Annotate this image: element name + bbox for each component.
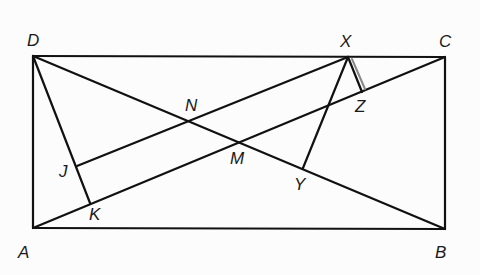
label-b: B [435,243,446,262]
label-z: Z [354,97,366,116]
label-c: C [439,32,452,51]
label-a: A [17,243,29,262]
diagram-svg: A B C D X N M J K Y Z [0,0,480,275]
side-ab [33,228,445,229]
side-cd [33,56,445,57]
segment-jx [77,57,348,166]
label-k: K [89,205,101,224]
label-j: J [58,162,68,181]
label-n: N [185,96,198,115]
label-m: M [230,149,245,168]
geometry-diagram: A B C D X N M J K Y Z [0,0,480,275]
label-y: Y [294,175,307,194]
segment-xz [348,57,362,92]
label-x: X [339,32,352,51]
label-d: D [27,31,39,50]
